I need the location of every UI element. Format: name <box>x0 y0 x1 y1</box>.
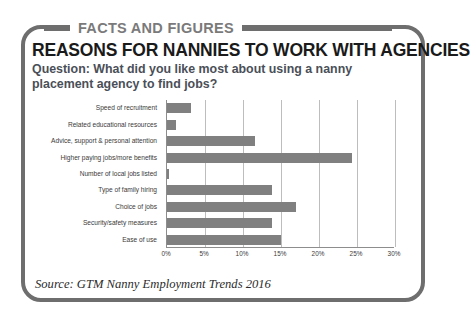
category-label: Type of family hiring <box>98 183 157 197</box>
x-tick-label: 15% <box>274 250 287 257</box>
x-tick-label: 20% <box>312 250 325 257</box>
plot-area <box>166 100 394 248</box>
category-label: Security/safety measures <box>83 216 157 230</box>
x-tick-label: 0% <box>161 250 170 257</box>
gridline <box>357 100 358 247</box>
x-tick-label: 10% <box>236 250 249 257</box>
page-title: REASONS FOR NANNIES TO WORK WITH AGENCIE… <box>32 40 470 61</box>
bar <box>167 136 255 146</box>
bar <box>167 103 191 113</box>
bar <box>167 218 272 228</box>
category-label: Advice, support & personal attention <box>51 134 157 148</box>
bar <box>167 153 352 163</box>
category-label: Higher paying jobs/more benefits <box>61 151 157 165</box>
gridline <box>319 100 320 247</box>
value-axis: 0%5%10%15%20%25%30% <box>166 250 406 262</box>
category-label: Speed of recruitment <box>96 101 157 115</box>
category-axis: Speed of recruitmentRelated educational … <box>32 98 161 248</box>
bar <box>167 202 296 212</box>
category-label: Number of local jobs listed <box>80 167 157 181</box>
category-label: Choice of jobs <box>115 200 157 214</box>
eyebrow-header: FACTS AND FIGURES <box>44 19 394 37</box>
x-tick-label: 30% <box>388 250 401 257</box>
bar <box>167 185 272 195</box>
eyebrow-dash-icon <box>44 25 70 31</box>
chart-question: Question: What did you like most about u… <box>32 62 412 92</box>
category-label: Related educational resources <box>68 118 157 132</box>
eyebrow-rule-icon <box>242 25 392 31</box>
bar <box>167 120 176 130</box>
x-tick-label: 25% <box>350 250 363 257</box>
gridline <box>281 100 282 247</box>
bar <box>167 169 169 179</box>
bar-chart: Speed of recruitmentRelated educational … <box>32 98 414 263</box>
source-note: Source: GTM Nanny Employment Trends 2016 <box>35 277 271 292</box>
chart-plot-wrapper: Speed of recruitmentRelated educational … <box>32 98 414 248</box>
gridline <box>395 100 396 247</box>
eyebrow-title: FACTS AND FIGURES <box>78 20 234 36</box>
bar <box>167 235 281 245</box>
category-label: Ease of use <box>122 233 157 247</box>
x-tick-label: 5% <box>199 250 208 257</box>
